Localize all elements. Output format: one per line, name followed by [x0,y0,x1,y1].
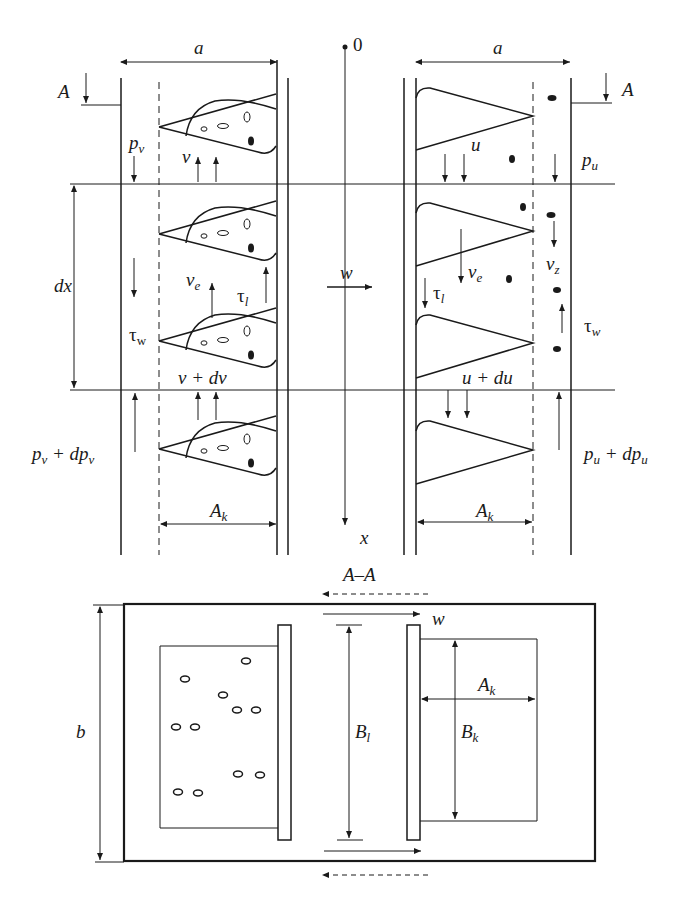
right-wall-stress: τw [584,316,600,338]
section-cross-velocity-label: w [432,609,445,628]
left-pressure-top: pv [129,133,144,155]
left-channel [81,60,288,555]
gap-length-label: Bl [355,722,370,744]
left-velocity-bottom: v + dv [178,368,227,387]
cross-velocity-label: w [340,263,353,282]
diagram-canvas: 0 x dx w a A pv v ve τl τw v + dv pv + d… [0,0,681,902]
right-velocity-bottom: u + du [462,368,513,387]
x-axis-label: x [360,528,368,547]
section-height-label: b [76,722,86,741]
left-bubble-profiles [159,94,276,475]
section-core-height-label: Bk [461,722,478,744]
left-interface-stress: τl [237,286,248,308]
right-width-label: a [493,38,503,57]
section-core-width-label: Ak [478,675,495,697]
x-axis [343,45,348,526]
left-entrainment-velocity: ve [186,270,200,292]
left-width-label: a [194,38,204,57]
right-pressure-top: pu [582,150,598,172]
left-core-width-label: Ak [210,501,227,523]
right-velocity-top: u [471,135,481,154]
section-label: A–A [343,565,376,584]
right-section-mark: A [622,80,634,99]
left-wall-stress: τw [129,325,146,347]
section-view [93,594,595,875]
left-velocity-top: v [182,147,190,166]
right-settling-velocity: vz [546,254,560,276]
left-section-mark: A [58,82,70,101]
right-entrainment-velocity: ve [468,262,482,284]
left-pressure-bottom: pv + dpv [32,444,94,466]
right-interface-stress: τl [433,283,444,305]
right-channel [404,62,612,555]
dx-label: dx [54,276,72,295]
origin-label: 0 [353,35,363,54]
right-pressure-bottom: pu + dpu [584,444,648,466]
right-core-width-label: Ak [476,501,493,523]
diagram-lines [0,0,681,902]
